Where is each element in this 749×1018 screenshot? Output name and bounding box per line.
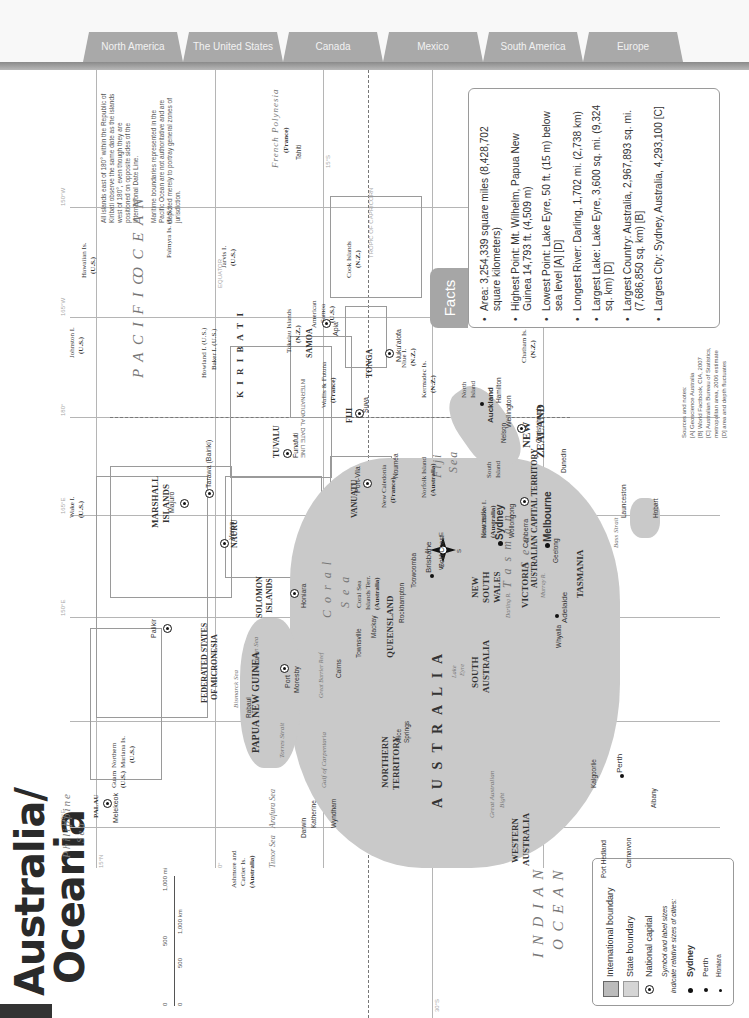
nukualofa-label: Nuku'alofa — [395, 329, 402, 362]
tokelau-label-2: (N.Z.) — [294, 325, 302, 343]
wyndham-label: Wyndham — [330, 799, 337, 828]
tonga-label: TONGA — [365, 349, 374, 378]
fsm-label-1: FEDERATED STATES — [200, 623, 209, 703]
guam-label: Guam — [110, 771, 118, 788]
page-corner-marker — [0, 1004, 52, 1018]
sources-notes: Sources and notes: [A] Geoscience Austra… — [680, 328, 728, 438]
torres-strait-label: Torres Strait — [278, 723, 286, 758]
auckland-label: Auckland — [486, 387, 495, 423]
sa-label-1: SOUTH — [470, 656, 480, 688]
wellington-capital-icon — [517, 424, 526, 433]
city-large-symbol — [688, 988, 693, 993]
boundary-cook — [330, 196, 422, 298]
melbourne-label: Melbourne — [542, 491, 553, 542]
qld-label: QUEENSLAND — [385, 595, 395, 658]
palmyra-label: Palmyra Is. (U.S.) — [165, 207, 173, 258]
tick-150w: 150°W — [60, 188, 66, 206]
auckland-dot — [480, 402, 484, 406]
cook-islands-label-2: (N.Z.) — [354, 250, 362, 268]
tab-canada[interactable]: Canada — [283, 32, 383, 62]
nt-label-1: NORTHERN — [380, 736, 390, 788]
south-island-label-2: Island — [494, 461, 502, 478]
philippine-sea-label-2: Sea — [74, 821, 86, 843]
honiara-label: Honiara — [300, 583, 307, 608]
tas-label: TASMANIA — [575, 550, 585, 598]
wa-label-2: AUSTRALIA — [521, 813, 531, 866]
compass-e: E — [438, 532, 444, 536]
ashmore-label: Ashmore and — [230, 850, 238, 888]
tarawa-capital-icon — [205, 489, 214, 498]
northern-mariana-label-2: Mariana Is. — [119, 736, 127, 768]
new-caledonia-label-2: (France) — [389, 477, 397, 503]
katherine-label: Katherine — [310, 800, 317, 828]
townsville-label: Townsville — [355, 628, 362, 658]
nukualofa-capital-icon — [385, 349, 394, 358]
fact-highest-point: Highest Point: Mt. Wilhelm, Papua New Gu… — [510, 99, 534, 311]
sydney-dot — [498, 541, 503, 546]
lake-eyre-label-2: Eyre — [458, 664, 465, 676]
tokelau-label: Tokelau Islands — [285, 309, 293, 353]
national-capital-icon — [645, 985, 654, 994]
solomon-label-1: SOLOMON — [255, 576, 264, 618]
lake-eyre-label: Lake — [450, 665, 457, 678]
compass-n: N — [424, 549, 430, 553]
funafuti-label: Funafuti — [292, 433, 299, 458]
fact-largest-lake: Largest Lake: Lake Eyre, 3,600 sq. mi. (… — [591, 99, 615, 311]
pacific-ocean-label-2: O C E A N — [130, 196, 147, 278]
tick-150e: 150°E — [60, 600, 66, 616]
coral-sea-label-2: S e a — [338, 575, 353, 608]
nelson-label: Nelson — [500, 423, 507, 443]
solomon-label-2: ISLANDS — [265, 578, 274, 613]
north-island-label-2: Island — [469, 381, 477, 398]
tab-europe[interactable]: Europe — [583, 32, 683, 62]
fiji-label: FIJI — [345, 408, 354, 423]
chapter-tab-bar: North America The United States Canada M… — [0, 0, 749, 72]
indian-ocean-label-2: O C E A N — [550, 868, 567, 950]
scale-bar: 0 500 1,000 mi 0 500 1,000 km — [160, 866, 190, 1006]
howland-label: Howland I. (U.S.) — [200, 328, 208, 378]
boundary-marshall — [110, 466, 232, 598]
tab-the-united-states[interactable]: The United States — [183, 32, 283, 62]
great-bight-label-1: Great Australian — [488, 771, 496, 818]
map-page: Australia/ Oceania 15°N 0° 15°S 30°S 45°… — [0, 70, 749, 1018]
american-samoa-label: American — [310, 300, 318, 328]
adelaide-label: Adelaide — [560, 592, 569, 623]
timor-sea-label: Timor Sea — [268, 835, 277, 868]
murray-river-label: Murray R. — [540, 573, 546, 598]
canberra-label: Canberra — [522, 519, 529, 548]
international-boundary-swatch — [603, 981, 619, 997]
darwin-label: Darwin — [300, 818, 307, 838]
northern-mariana-label: Northern — [110, 743, 118, 768]
tab-north-america[interactable]: North America — [83, 32, 183, 62]
tab-south-america[interactable]: South America — [483, 32, 583, 62]
tarawa-label: Tarawa (Bairiki) — [205, 440, 212, 488]
tab-mexico[interactable]: Mexico — [383, 32, 483, 62]
facts-box: Area: 3,254,339 square miles (8,428,702 … — [468, 88, 720, 328]
philippine-sea-label-1: Philippine — [60, 792, 72, 858]
port-moresby-label-2: Moresby — [293, 666, 300, 693]
mackay-label: Mackay — [370, 616, 377, 638]
fact-lowest-point: Lowest Point: Lake Eyre, 50 ft. (15 m) b… — [541, 99, 565, 311]
wollongong-label: Wollongong — [508, 504, 515, 538]
alice-springs-label: Alice — [395, 729, 402, 743]
hawaiian-label-2: (U.S.) — [89, 257, 97, 274]
sa-label-2: AUSTRALIA — [481, 640, 491, 693]
adelaide-dot — [555, 614, 559, 618]
chatham-label: Chatham Is. — [520, 329, 528, 363]
perth-label: Perth — [615, 754, 624, 773]
chatham-label-2: (N.Z.) — [529, 340, 537, 358]
city-medium-symbol — [704, 988, 708, 992]
niue-label-2: (N.Z.) — [409, 348, 417, 366]
great-bight-label-2: Bight — [498, 793, 506, 808]
papua-new-guinea-landmass — [240, 618, 300, 768]
tick-165e: 165°E — [60, 498, 66, 514]
city-small-symbol — [719, 989, 722, 992]
nsw-label-1: NEW — [470, 576, 480, 598]
hobart-label: Hobart — [652, 498, 659, 518]
page-title: Australia/ Oceania — [10, 788, 90, 996]
indian-ocean-label-1: I N D I A N — [530, 868, 547, 958]
christchurch-label: Christchurch — [535, 407, 542, 443]
australia-label: A U S T R A L I A — [430, 651, 446, 808]
jarvis-label-2: (U.S.) — [229, 249, 237, 266]
darling-river-label: Darling R. — [505, 592, 511, 618]
